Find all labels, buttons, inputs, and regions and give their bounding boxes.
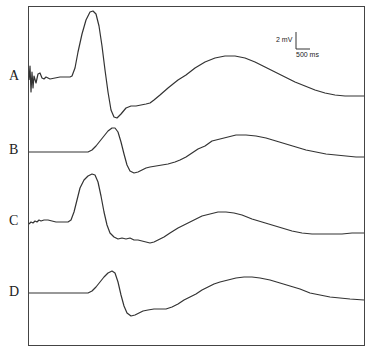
trace-label-d: D	[9, 284, 19, 300]
trace-label-c: C	[9, 213, 18, 229]
trace-label-b: B	[9, 142, 18, 158]
trace-a	[29, 11, 364, 118]
trace-c	[29, 174, 364, 243]
trace-b	[29, 128, 364, 173]
waveform-chart	[0, 0, 379, 354]
scale-bar	[296, 32, 310, 49]
trace-label-a: A	[9, 68, 19, 84]
trace-d	[29, 271, 364, 316]
scale-bar-voltage-label: 2 mV	[276, 36, 292, 43]
scale-bar-time-label: 500 ms	[296, 51, 319, 58]
